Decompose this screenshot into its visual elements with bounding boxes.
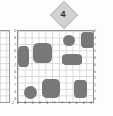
tick-label: 4 bbox=[46, 102, 48, 105]
tick-label: 7 bbox=[54, 102, 56, 105]
tick-label: 4 bbox=[14, 91, 16, 94]
tick-label: 8 bbox=[24, 102, 26, 105]
tick-label: 7 bbox=[94, 91, 96, 94]
tick-label: 4 bbox=[83, 102, 85, 105]
axis-ticks-bottom: 4 8 0 2 4 7 7 3 4 4 6 bbox=[17, 102, 92, 110]
tick-label: 4 bbox=[17, 102, 19, 105]
tick-label: 4 bbox=[14, 98, 16, 101]
tick-label: 5 bbox=[94, 50, 96, 53]
heatmap-blob bbox=[63, 35, 75, 46]
tick-label: 4 bbox=[76, 102, 78, 105]
tick-label: 2 bbox=[94, 30, 96, 33]
tick-label: 3 bbox=[94, 98, 96, 101]
heatmap-blob bbox=[18, 46, 29, 67]
axis-ticks-bottom-adjacent: 2 bbox=[2, 102, 14, 110]
heatmap-blob bbox=[24, 86, 37, 99]
tick-label: 6 bbox=[94, 64, 96, 67]
chart-root: 4 0 8 7 6 7 2 6 5 7 4 4 2 4 7 5 8 bbox=[0, 0, 113, 116]
tick-label: 6 bbox=[94, 71, 96, 74]
tick-label: 7 bbox=[61, 102, 63, 105]
main-chart-panel bbox=[17, 30, 94, 103]
heatmap-blob bbox=[42, 79, 60, 98]
tick-label: 0 bbox=[32, 102, 34, 105]
tick-label: 2 bbox=[12, 102, 14, 110]
tick-label: 3 bbox=[68, 102, 70, 105]
tick-label: 6 bbox=[14, 71, 16, 74]
tick-label: 7 bbox=[14, 84, 16, 87]
tick-label: 0 bbox=[14, 30, 16, 33]
tick-label: 6 bbox=[90, 102, 92, 105]
axis-ticks-left: 0 8 7 6 7 2 6 5 7 4 4 bbox=[7, 30, 16, 101]
heatmap-blob bbox=[33, 43, 52, 63]
tick-label: 7 bbox=[14, 57, 16, 60]
tick-label: 8 bbox=[14, 37, 16, 40]
axis-ticks-right: 2 4 7 5 8 6 6 2 5 7 3 bbox=[94, 30, 105, 101]
heatmap-blob bbox=[62, 54, 82, 65]
panel-index-label: 4 bbox=[50, 1, 76, 27]
tick-label: 6 bbox=[14, 50, 16, 53]
tick-label: 5 bbox=[94, 84, 96, 87]
tick-label: 5 bbox=[14, 77, 16, 80]
tick-label: 7 bbox=[94, 44, 96, 47]
tick-label: 2 bbox=[14, 64, 16, 67]
tick-label: 2 bbox=[94, 77, 96, 80]
panel-index-badge: 4 bbox=[50, 1, 76, 27]
tick-label: 4 bbox=[94, 37, 96, 40]
heatmap-blob bbox=[81, 32, 94, 48]
heatmap-blob bbox=[74, 80, 87, 98]
tick-label: 8 bbox=[94, 57, 96, 60]
tick-label: 2 bbox=[39, 102, 41, 105]
tick-label: 7 bbox=[14, 44, 16, 47]
